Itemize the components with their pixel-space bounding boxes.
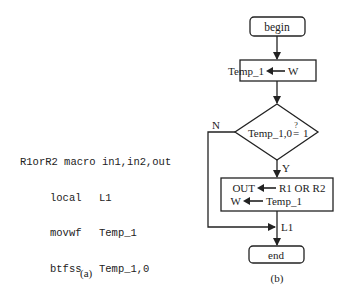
decision-text: Temp_1,0 <box>248 127 293 139</box>
step2-line1-right: R1 OR R2 <box>279 182 325 194</box>
join-label: L1 <box>281 221 293 233</box>
end-label: end <box>268 249 284 261</box>
decision-value: 1 <box>303 127 309 139</box>
yes-label: Y <box>282 162 290 174</box>
flowchart: begin Temp_1 W Temp_1,0 ? = 1 N Y OUT R1… <box>0 0 349 300</box>
caption-b: (b) <box>271 272 284 285</box>
no-label: N <box>212 119 220 131</box>
step2-line2-left: W <box>231 195 242 207</box>
step2-line2-right: Temp_1 <box>266 195 302 207</box>
step2-line1-left: OUT <box>232 182 255 194</box>
step1-left: Temp_1 <box>228 65 264 77</box>
decision-compare: = <box>293 127 299 139</box>
start-label: begin <box>264 21 290 34</box>
step1-right: W <box>288 65 299 77</box>
